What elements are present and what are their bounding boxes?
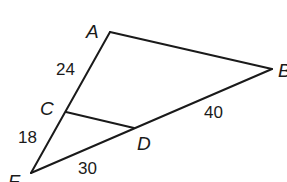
vertex-label-A: A (85, 21, 99, 42)
vertex-label-B: B (278, 60, 287, 81)
triangle-diagram: A B C D F 24 18 30 40 (0, 0, 287, 182)
length-label-FD: 30 (78, 159, 97, 178)
vertex-label-D: D (137, 133, 151, 154)
length-label-AC: 24 (56, 60, 75, 79)
vertex-label-C: C (40, 98, 54, 119)
segment-AB (110, 32, 272, 69)
length-label-CF: 18 (18, 128, 37, 147)
length-label-DB: 40 (204, 103, 223, 122)
segment-CD (66, 112, 134, 128)
vertex-label-F: F (8, 171, 21, 182)
segment-FB (31, 69, 272, 173)
